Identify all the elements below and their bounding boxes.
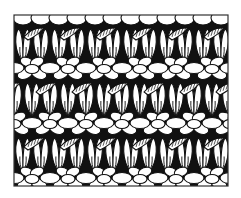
hatch-line xyxy=(232,83,234,88)
stitch-vein xyxy=(6,47,8,60)
purl-bump xyxy=(187,120,201,129)
purl-bump xyxy=(76,63,96,74)
purl-bump xyxy=(202,118,222,129)
purl-bump xyxy=(103,11,123,25)
purl-bump xyxy=(0,175,3,184)
twisted-stitch xyxy=(240,28,241,40)
purl-bump xyxy=(61,65,75,74)
purl-bump xyxy=(157,11,177,25)
purl-bump xyxy=(220,173,240,184)
purl-bump xyxy=(184,173,204,184)
stitch-vein xyxy=(6,157,8,171)
purl-petal xyxy=(232,177,241,192)
purl-bump xyxy=(97,65,111,74)
purl-bump xyxy=(67,11,87,25)
purl-bump xyxy=(43,120,57,129)
stitch-vein xyxy=(11,101,13,114)
hatch-line xyxy=(4,85,6,92)
purl-bump xyxy=(139,11,159,25)
knit-stitch-left-leg xyxy=(0,29,5,62)
purl-petal xyxy=(235,55,241,68)
stitch-grid xyxy=(0,11,241,191)
hatch-line xyxy=(4,28,6,33)
purl-bump xyxy=(229,11,241,25)
purl-bump xyxy=(31,11,51,25)
purl-bump xyxy=(13,11,33,25)
twisted-stitch xyxy=(240,138,241,150)
knit-stitch-right-leg xyxy=(239,138,241,172)
hatch-line xyxy=(4,138,6,143)
purl-bump xyxy=(94,118,114,129)
purl-bump xyxy=(97,175,111,184)
purl-bump xyxy=(85,11,105,25)
purl-bump xyxy=(121,11,141,25)
hatch-line xyxy=(229,83,231,88)
purl-bump xyxy=(148,63,168,74)
purl-petal xyxy=(235,165,241,178)
stitch-vein xyxy=(2,47,4,60)
purl-bump xyxy=(40,63,60,74)
hatch-line xyxy=(1,138,3,143)
purl-bump xyxy=(223,120,237,129)
purl-bump xyxy=(22,118,42,129)
purl-bump xyxy=(205,175,219,184)
purl-bump xyxy=(130,118,150,129)
purl-bump xyxy=(193,11,213,25)
knit-stitch-right-leg xyxy=(5,29,12,62)
purl-bump xyxy=(25,175,39,184)
purl-bump xyxy=(169,175,183,184)
purl-bump xyxy=(133,65,147,74)
hatch-line xyxy=(1,28,3,33)
knit-stitch-left-leg xyxy=(232,138,239,172)
purl-petal xyxy=(0,165,9,178)
purl-bump xyxy=(115,120,129,129)
purl-petal xyxy=(228,122,241,137)
knit-stitch-left-leg xyxy=(232,29,239,62)
purl-bump xyxy=(184,63,204,74)
twisted-stitch xyxy=(0,138,8,150)
purl-bump xyxy=(40,173,60,184)
purl-bump xyxy=(166,118,186,129)
knit-stitch-left-leg xyxy=(7,83,14,116)
knit-stitch-right-leg xyxy=(239,29,241,62)
stitch-vein xyxy=(236,47,238,60)
purl-bump xyxy=(79,120,93,129)
purl-bump xyxy=(151,120,165,129)
purl-petal xyxy=(232,67,241,82)
stitch-vein xyxy=(231,101,233,114)
twisted-stitch xyxy=(0,28,8,40)
purl-bump xyxy=(25,65,39,74)
stitch-vein xyxy=(236,157,238,171)
purl-bump xyxy=(169,65,183,74)
stitch-vein xyxy=(2,157,4,171)
knit-stitch-right-leg xyxy=(230,83,237,116)
purl-bump xyxy=(0,65,3,74)
hatch-line xyxy=(7,84,9,90)
purl-bump xyxy=(148,173,168,184)
purl-bump xyxy=(133,175,147,184)
purl-petal xyxy=(0,55,9,68)
purl-bump xyxy=(49,11,69,25)
purl-bump xyxy=(0,118,6,129)
purl-petal xyxy=(0,67,12,82)
purl-bump xyxy=(205,65,219,74)
purl-petal xyxy=(227,110,241,123)
purl-bump xyxy=(112,63,132,74)
stitch-vein xyxy=(240,47,241,60)
purl-bump xyxy=(175,11,195,25)
knit-texture-drawing xyxy=(0,0,241,198)
knit-stitch-left-leg xyxy=(0,138,5,172)
hatch-line xyxy=(10,84,12,90)
purl-petal xyxy=(0,177,12,192)
purl-bump xyxy=(61,175,75,184)
purl-bump xyxy=(76,173,96,184)
stitch-pattern-figure xyxy=(0,0,241,198)
purl-bump xyxy=(112,173,132,184)
knit-stitch-right-leg xyxy=(5,138,12,172)
purl-bump xyxy=(220,63,240,74)
purl-bump xyxy=(238,118,241,129)
purl-bump xyxy=(0,11,15,25)
purl-bump xyxy=(58,118,78,129)
stitch-vein xyxy=(240,157,241,171)
